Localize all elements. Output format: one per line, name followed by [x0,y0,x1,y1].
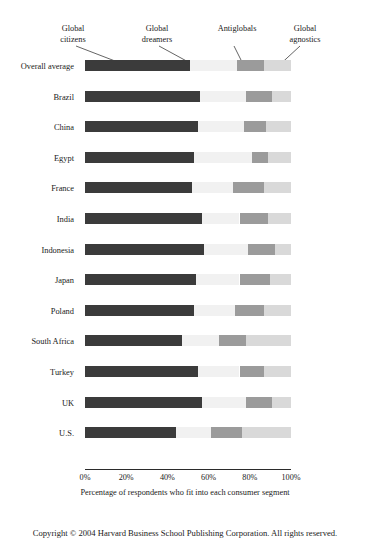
chart-row: UK [0,395,370,426]
bar-segment-antiglobals [219,335,246,346]
bar-segment-global-dreamers [194,305,235,316]
callout-label-line1: Antiglobals [218,24,257,33]
row-label: Turkey [0,367,74,378]
bar-segment-global-dreamers [190,60,237,71]
chart-row: U.S. [0,425,370,456]
chart-row: Overall average [0,58,370,89]
row-label: Overall average [0,61,74,72]
x-tick-label: 0% [65,472,105,483]
bar-segment-global-agnostics [268,152,291,163]
bar-segment-global-citizens [85,182,192,193]
bar-segment-antiglobals [237,60,264,71]
chart-row: Indonesia [0,242,370,273]
row-label: Brazil [0,92,74,103]
bar-segment-antiglobals [248,244,275,255]
stacked-bar [85,152,291,163]
row-label: U.S. [0,428,74,439]
row-label: South Africa [0,336,74,347]
bar-segment-global-dreamers [192,182,233,193]
x-tick-label: 20% [106,472,146,483]
bar-segment-global-citizens [85,366,198,377]
bar-segment-global-agnostics [264,366,291,377]
bar-segment-global-dreamers [204,244,247,255]
chart-caption: Percentage of respondents who fit into e… [0,487,370,498]
row-label: India [0,214,74,225]
row-label: China [0,122,74,133]
row-label: Japan [0,275,74,286]
row-label: Poland [0,306,74,317]
stacked-bar [85,244,291,255]
callout-label-line1: Global [294,24,317,33]
bar-segment-global-citizens [85,397,202,408]
stacked-bar [85,121,291,132]
stacked-bar [85,274,291,285]
bar-segment-global-dreamers [196,274,239,285]
bar-segment-global-dreamers [202,397,245,408]
bar-segment-global-citizens [85,91,200,102]
callout-label-line1: Global [146,24,169,33]
bar-segment-antiglobals [244,121,267,132]
stacked-bar [85,335,291,346]
bar-segment-antiglobals [211,427,242,438]
bar-segment-antiglobals [235,305,264,316]
stacked-bar [85,60,291,71]
callout-label-line2: dreamers [122,35,192,46]
stacked-bar [85,91,291,102]
stacked-bar [85,397,291,408]
bar-segment-global-citizens [85,274,196,285]
chart-row: India [0,211,370,242]
bar-segment-global-dreamers [194,152,252,163]
bar-segment-global-dreamers [176,427,211,438]
bar-segment-global-agnostics [275,244,291,255]
chart-row: Poland [0,303,370,334]
chart-row: Egypt [0,150,370,181]
x-tick-label: 60% [189,472,229,483]
x-tick-label: 100% [271,472,311,483]
bar-segment-global-citizens [85,152,194,163]
chart-plot-area: Overall averageBrazilChinaEgyptFranceInd… [0,58,370,456]
callout-label-line2: agnostics [272,35,338,46]
bar-segment-global-citizens [85,60,190,71]
bar-segment-global-agnostics [266,121,291,132]
bar-segment-global-agnostics [264,60,291,71]
stacked-bar [85,366,291,377]
bar-segment-antiglobals [240,366,265,377]
x-tick-label: 40% [147,472,187,483]
bar-segment-global-citizens [85,213,202,224]
chart-row: Brazil [0,89,370,120]
callout-global-agnostics: Global agnostics [272,24,338,45]
bar-segment-global-agnostics [270,274,291,285]
x-axis-ticks: 0%20%40%60%80%100% [0,472,370,484]
bar-segment-global-citizens [85,427,176,438]
callout-global-citizens: Global citizens [38,24,108,45]
row-label: Egypt [0,153,74,164]
bar-segment-global-agnostics [264,305,291,316]
chart-row: South Africa [0,333,370,364]
callout-label-line2: citizens [38,35,108,46]
bar-segment-global-dreamers [198,366,239,377]
row-label: Indonesia [0,245,74,256]
callout-label-line1: Global [62,24,85,33]
bar-segment-global-citizens [85,244,204,255]
stacked-bar [85,182,291,193]
bar-segment-antiglobals [233,182,264,193]
stacked-bar [85,427,291,438]
bar-segment-global-citizens [85,335,182,346]
stacked-bar [85,213,291,224]
bar-segment-antiglobals [246,91,273,102]
stacked-bar [85,305,291,316]
bar-segment-global-dreamers [202,213,239,224]
bar-segment-global-agnostics [264,182,291,193]
bar-segment-global-citizens [85,121,198,132]
bar-segment-global-citizens [85,305,194,316]
chart-row: Turkey [0,364,370,395]
bar-segment-global-agnostics [268,213,291,224]
row-label: UK [0,398,74,409]
callout-antiglobals: Antiglobals [206,24,268,35]
bar-segment-global-agnostics [246,335,291,346]
callout-global-dreamers: Global dreamers [122,24,192,45]
chart-row: France [0,180,370,211]
x-axis-line [85,469,291,470]
chart-row: China [0,119,370,150]
bar-segment-antiglobals [252,152,268,163]
